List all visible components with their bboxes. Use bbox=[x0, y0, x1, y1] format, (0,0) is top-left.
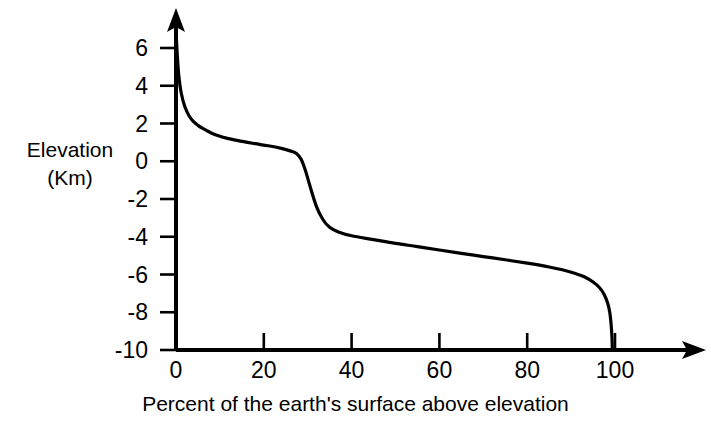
y-tick-label: 0 bbox=[60, 148, 148, 175]
y-tick-label: 2 bbox=[60, 110, 148, 137]
x-tick-label: 80 bbox=[514, 357, 540, 384]
x-axis-ticks bbox=[176, 333, 615, 350]
y-tick-label: 4 bbox=[60, 72, 148, 99]
hypsometric-curve-figure: Elevation (Km) Percent of the earth's su… bbox=[0, 0, 711, 432]
y-tick-label: -2 bbox=[60, 186, 148, 213]
x-axis-title: Percent of the earth's surface above ele… bbox=[0, 392, 711, 416]
y-tick-label: -4 bbox=[60, 223, 148, 250]
x-tick-label: 60 bbox=[427, 357, 453, 384]
elevation-curve bbox=[176, 29, 612, 350]
x-tick-label: 40 bbox=[339, 357, 365, 384]
x-tick-label: 100 bbox=[596, 357, 634, 384]
y-tick-label: 6 bbox=[60, 35, 148, 62]
x-tick-label: 0 bbox=[170, 357, 183, 384]
y-tick-label: -6 bbox=[60, 261, 148, 288]
y-tick-label: -10 bbox=[60, 337, 148, 364]
y-tick-label: -8 bbox=[60, 299, 148, 326]
x-tick-label: 20 bbox=[251, 357, 277, 384]
y-axis-ticks bbox=[160, 48, 176, 350]
